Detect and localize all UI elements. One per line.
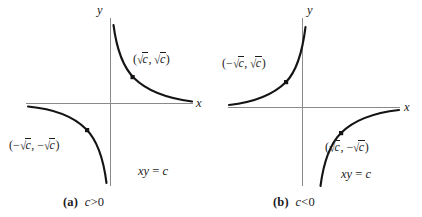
c-var: c bbox=[365, 167, 371, 181]
minus-sign: − bbox=[226, 56, 233, 70]
panel-a-plot bbox=[0, 0, 211, 217]
sqrt-c-x: √c bbox=[233, 56, 244, 69]
minus-sign: − bbox=[13, 138, 20, 152]
radical-icon: √ bbox=[251, 58, 257, 70]
caption-b: (b) c<0 bbox=[273, 196, 315, 209]
panel-a: y x (√c, √c) (−√c, −√c) xy = c (a) c>0 bbox=[0, 0, 211, 217]
equation-label-a: xy = c bbox=[138, 165, 168, 178]
sqrt-c-y: √c bbox=[154, 52, 165, 65]
x-axis-label-b: x bbox=[404, 101, 410, 114]
radical-icon: √ bbox=[155, 54, 161, 66]
sqrt-c-x: √c bbox=[137, 52, 148, 65]
radical-icon: √ bbox=[44, 140, 50, 152]
equals-sign: = bbox=[352, 167, 365, 181]
close-paren: ) bbox=[262, 56, 266, 70]
minus-sign: − bbox=[37, 138, 44, 152]
sqrt-c-y: √c bbox=[250, 56, 261, 69]
caption-rel-a: > bbox=[91, 195, 98, 209]
close-paren: ) bbox=[365, 140, 369, 154]
point-marker-q4 bbox=[339, 131, 343, 135]
radical-icon: √ bbox=[20, 140, 26, 152]
equals-sign: = bbox=[149, 164, 162, 178]
y-axis-label-a: y bbox=[97, 4, 103, 17]
close-paren: ) bbox=[55, 138, 59, 152]
close-paren: ) bbox=[166, 52, 170, 66]
point-label-q2: (−√c, √c) bbox=[222, 56, 266, 69]
caption-val-a: 0 bbox=[98, 195, 104, 209]
caption-index-b: (b) bbox=[273, 195, 289, 209]
radical-icon: √ bbox=[137, 54, 143, 66]
caption-rel-b: < bbox=[301, 195, 308, 209]
caption-val-b: 0 bbox=[309, 195, 315, 209]
radical-icon: √ bbox=[329, 142, 335, 154]
sqrt-c-x: √c bbox=[20, 138, 31, 151]
caption-index-a: (a) bbox=[63, 195, 78, 209]
sqrt-c-x: √c bbox=[329, 140, 340, 153]
minus-sign: − bbox=[346, 140, 353, 154]
radical-icon: √ bbox=[233, 58, 239, 70]
point-label-q4: (√c, −√c) bbox=[325, 140, 369, 153]
x-axis-label-a: x bbox=[196, 97, 202, 110]
point-marker-q1 bbox=[131, 75, 135, 79]
hyperbola-figure: y x (√c, √c) (−√c, −√c) xy = c (a) c>0 bbox=[0, 0, 422, 217]
point-marker-q2 bbox=[284, 80, 288, 84]
point-label-q3: (−√c, −√c) bbox=[9, 138, 59, 151]
radical-icon: √ bbox=[354, 142, 360, 154]
caption-a: (a) c>0 bbox=[63, 196, 104, 209]
c-var: c bbox=[162, 164, 168, 178]
sqrt-c-y: √c bbox=[353, 140, 364, 153]
equation-label-b: xy = c bbox=[341, 168, 371, 181]
y-axis-label-b: y bbox=[307, 4, 313, 17]
sqrt-c-y: √c bbox=[44, 138, 55, 151]
point-marker-q3 bbox=[85, 128, 89, 132]
caption-space bbox=[289, 195, 296, 209]
panel-b: y x (−√c, √c) (√c, −√c) xy = c (b) c<0 bbox=[211, 0, 422, 217]
point-label-q1: (√c, √c) bbox=[133, 52, 170, 65]
caption-space bbox=[78, 195, 85, 209]
panel-b-plot bbox=[211, 0, 422, 217]
